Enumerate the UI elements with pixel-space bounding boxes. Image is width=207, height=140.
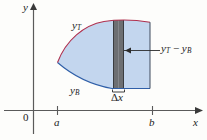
bottom-curve-label-sub: B <box>75 89 79 97</box>
delta-x-variable: x <box>118 91 123 103</box>
representative-strip <box>113 15 124 95</box>
top-curve-label-sub: T <box>77 24 81 32</box>
top-curve-label: yT <box>72 20 81 33</box>
delta-x-label: Δx <box>111 92 123 103</box>
difference-trail-base: y <box>182 42 187 54</box>
difference-trail-sub: B <box>187 47 191 55</box>
area-between-curves-figure: y x 0 a b yT yB yT − yB Δx <box>0 0 207 140</box>
y-axis <box>30 3 37 134</box>
origin-label: 0 <box>23 112 29 123</box>
x-axis-label: x <box>193 117 198 128</box>
height-difference-label: yT − yB <box>161 43 191 56</box>
tick-label-b: b <box>149 117 155 128</box>
figure-canvas <box>0 0 207 140</box>
y-axis-label: y <box>23 2 28 13</box>
bottom-curve-label: yB <box>70 85 80 98</box>
tick-label-a: a <box>54 117 60 128</box>
